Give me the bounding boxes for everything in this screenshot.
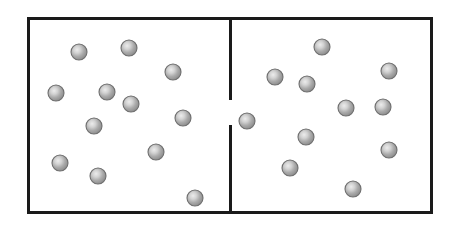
particle-r1 — [314, 39, 330, 55]
particle-l1 — [71, 44, 87, 60]
particle-r9 — [282, 160, 298, 176]
particle-r2 — [267, 69, 283, 85]
particle-l4 — [48, 85, 64, 101]
particle-l11 — [90, 168, 106, 184]
particle-l10 — [52, 155, 68, 171]
particle-r6 — [375, 99, 391, 115]
particle-r5 — [338, 100, 354, 116]
particle-l6 — [123, 96, 139, 112]
particle-r10 — [345, 181, 361, 197]
particle-r4 — [381, 63, 397, 79]
particle-l12 — [187, 190, 203, 206]
particle-l2 — [121, 40, 137, 56]
particle-l3 — [165, 64, 181, 80]
gas-diffusion-figure — [0, 0, 454, 231]
particle-l9 — [148, 144, 164, 160]
particle-l7 — [86, 118, 102, 134]
particle-l5 — [99, 84, 115, 100]
particle-r7 — [298, 129, 314, 145]
particle-r3 — [299, 76, 315, 92]
particle-l8 — [175, 110, 191, 126]
diagram-canvas — [0, 0, 454, 231]
particle-o1 — [239, 113, 255, 129]
opening-particles — [239, 113, 255, 129]
particle-r8 — [381, 142, 397, 158]
